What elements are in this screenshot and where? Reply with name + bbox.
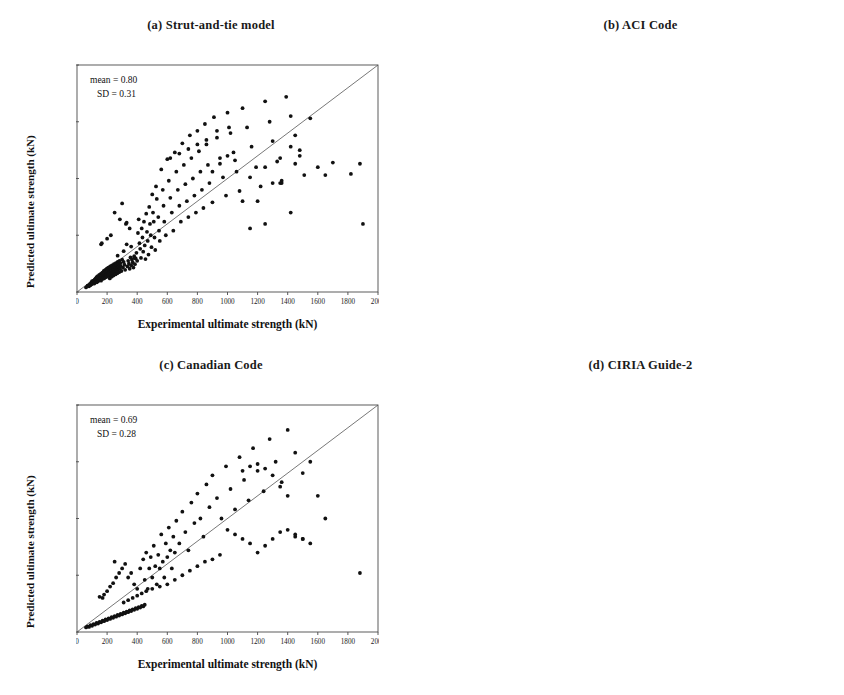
panel-a-sd: SD = 0.31	[90, 88, 137, 102]
svg-text:400: 400	[132, 298, 143, 306]
svg-text:1400: 1400	[281, 638, 296, 646]
panel-c-x-axis-label: Experimental ultimate strength (kN)	[76, 658, 379, 670]
panel-c-y-axis-label: Predicted ultimate strength (kN)	[24, 475, 36, 628]
svg-text:1200: 1200	[250, 298, 265, 306]
svg-text:0: 0	[76, 638, 79, 646]
svg-text:200: 200	[102, 638, 113, 646]
panel-c-stats: mean = 0.69 SD = 0.28	[90, 414, 137, 442]
panel-d-title: (d) CIRIA Guide-2	[437, 358, 844, 373]
panel-a-x-axis-label: Experimental ultimate strength (kN)	[76, 318, 379, 330]
svg-text:1600: 1600	[311, 638, 326, 646]
figure-root: (a) Strut-and-tie model Predicted ultima…	[0, 0, 844, 695]
panel-b: (b) ACI Code Predicted ultimate strength…	[437, 18, 844, 348]
svg-text:1000: 1000	[220, 298, 235, 306]
panel-c-mean: mean = 0.69	[90, 414, 137, 428]
svg-text:1800: 1800	[341, 298, 356, 306]
svg-text:2000: 2000	[371, 298, 379, 306]
svg-text:1000: 1000	[220, 638, 235, 646]
panel-c: (c) Canadian Code Predicted ultimate str…	[0, 358, 422, 688]
svg-text:1400: 1400	[281, 298, 296, 306]
panel-b-title: (b) ACI Code	[437, 18, 844, 33]
panel-a: (a) Strut-and-tie model Predicted ultima…	[0, 18, 422, 348]
panel-c-sd: SD = 0.28	[90, 428, 137, 442]
svg-text:200: 200	[102, 298, 113, 306]
panel-d: (d) CIRIA Guide-2 Predicted ultimate str…	[437, 358, 844, 688]
panel-a-stats: mean = 0.80 SD = 0.31	[90, 74, 137, 102]
panel-a-y-axis-label: Predicted ultimate strength (kN)	[24, 135, 36, 288]
svg-text:600: 600	[162, 298, 173, 306]
svg-text:800: 800	[192, 638, 203, 646]
svg-text:2000: 2000	[371, 638, 379, 646]
svg-text:1200: 1200	[250, 638, 265, 646]
svg-text:800: 800	[192, 298, 203, 306]
panel-a-mean: mean = 0.80	[90, 74, 137, 88]
svg-text:1600: 1600	[311, 298, 326, 306]
svg-text:600: 600	[162, 638, 173, 646]
svg-text:0: 0	[76, 298, 79, 306]
panel-c-title: (c) Canadian Code	[0, 358, 422, 373]
panel-a-title: (a) Strut-and-tie model	[0, 18, 422, 33]
svg-text:400: 400	[132, 638, 143, 646]
svg-text:1800: 1800	[341, 638, 356, 646]
